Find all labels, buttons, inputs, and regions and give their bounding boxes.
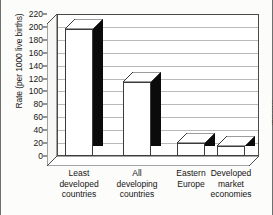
- bar-front-face-1: [123, 82, 151, 156]
- y-tick-label-80: 80: [34, 99, 43, 109]
- y-tick-label-120: 120: [29, 74, 43, 84]
- source-credit: WHO 93142: [271, 100, 273, 125]
- y-tick-label-100: 100: [29, 86, 43, 96]
- y-tick-label-60: 60: [34, 112, 43, 122]
- bar-top-face-0: [65, 19, 103, 29]
- bar-2: [177, 143, 205, 156]
- figure-frame: Rate (per 1000 live births) 020406080100…: [0, 0, 273, 215]
- y-tick-label-160: 160: [29, 48, 43, 58]
- bar-front-face-3: [217, 146, 245, 156]
- y-tick-label-20: 20: [34, 138, 43, 148]
- plot-area: [47, 14, 259, 166]
- bar-top-face-3: [217, 136, 255, 146]
- bar-side-face-1: [151, 72, 161, 146]
- y-tick-label-180: 180: [29, 35, 43, 45]
- y-tick-label-220: 220: [29, 9, 43, 19]
- bar-top-face-2: [177, 133, 215, 143]
- bar-top-face-1: [123, 72, 161, 82]
- bar-1: [123, 82, 151, 156]
- bar-front-face-0: [65, 29, 93, 156]
- bar-3: [217, 146, 245, 156]
- bar-side-face-0: [93, 19, 103, 146]
- x-category-label-3: Developed market economies: [197, 168, 265, 200]
- bar-front-face-2: [177, 143, 205, 156]
- bar-0: [65, 29, 93, 156]
- y-tick-label-140: 140: [29, 61, 43, 71]
- y-tick-label-200: 200: [29, 22, 43, 32]
- y-tick-label-40: 40: [34, 125, 43, 135]
- x-axis-category-labels: Least developed countriesAll developing …: [1, 168, 273, 215]
